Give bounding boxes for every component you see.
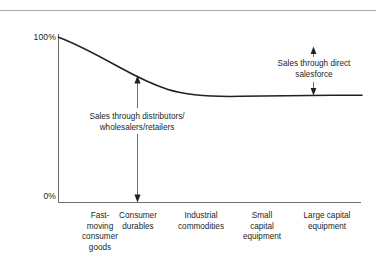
- x-axis-category-large-capital-equipment: Large capital equipment: [284, 211, 370, 232]
- distributors-arrowhead-down: [134, 195, 140, 203]
- annotation-sales-through-distributors: Sales through distributors/ wholesalers/…: [57, 112, 217, 133]
- salesforce-arrowhead-up: [311, 47, 317, 55]
- salesforce-arrowhead-down: [311, 88, 317, 96]
- distributors-arrowhead-up: [134, 76, 140, 84]
- y-axis-tick-label-100: 100%: [8, 32, 56, 43]
- annotation-sales-through-direct-salesforce: Sales through direct salesforce: [258, 59, 370, 80]
- chart-figure: 100% 0% Fast- moving consumer goods Cons…: [0, 0, 376, 271]
- y-axis-tick-label-0: 0%: [8, 191, 56, 202]
